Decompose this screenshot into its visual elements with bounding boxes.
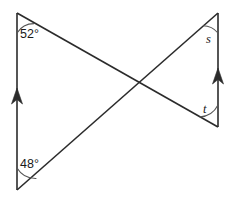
- angle-label-top-right: s: [206, 33, 211, 46]
- transversal-top-left-to-bottom-right: [17, 13, 218, 127]
- transversal-bottom-left-to-top-right: [17, 13, 218, 190]
- geometry-figure: 52° 48° s t: [0, 0, 236, 197]
- angle-label-bottom-left: 48°: [20, 158, 39, 171]
- angle-label-bottom-right: t: [203, 103, 206, 116]
- angle-label-top-left: 52°: [20, 28, 39, 41]
